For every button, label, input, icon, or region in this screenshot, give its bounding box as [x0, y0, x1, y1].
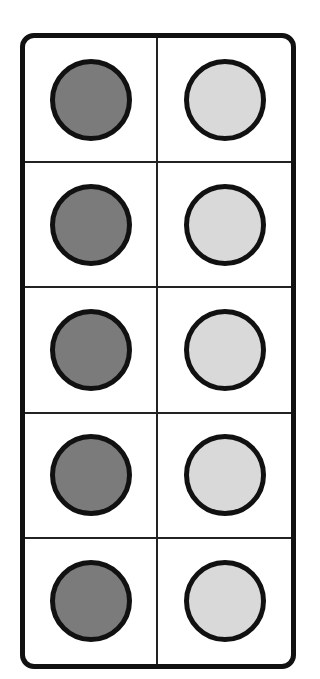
- dark-counter-icon: [50, 59, 132, 141]
- frame-cell: [25, 414, 158, 539]
- frame-cell: [25, 288, 158, 413]
- frame-cell: [25, 38, 158, 163]
- ten-frame-grid: [25, 38, 291, 664]
- light-counter-icon: [184, 184, 266, 266]
- frame-cell: [158, 288, 291, 413]
- frame-cell: [25, 539, 158, 664]
- dark-counter-icon: [50, 560, 132, 642]
- frame-cell: [158, 163, 291, 288]
- frame-cell: [158, 414, 291, 539]
- light-counter-icon: [184, 309, 266, 391]
- dark-counter-icon: [50, 184, 132, 266]
- light-counter-icon: [184, 560, 266, 642]
- light-counter-icon: [184, 434, 266, 516]
- frame-cell: [25, 163, 158, 288]
- dark-counter-icon: [50, 434, 132, 516]
- frame-cell: [158, 38, 291, 163]
- ten-frame: [20, 33, 296, 669]
- light-counter-icon: [184, 59, 266, 141]
- frame-cell: [158, 539, 291, 664]
- dark-counter-icon: [50, 309, 132, 391]
